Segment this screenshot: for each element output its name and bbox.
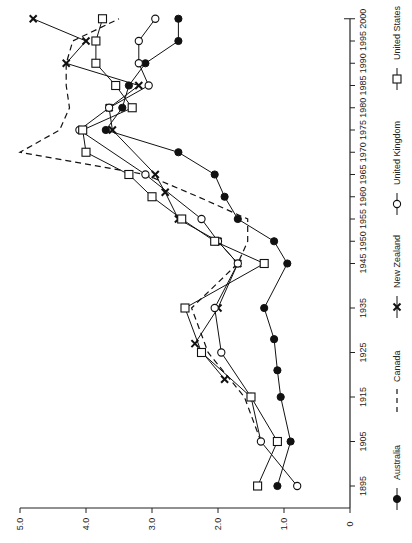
open-square-marker	[79, 126, 87, 134]
filled-circle-marker	[119, 104, 126, 111]
year-axis-label: 2000	[358, 9, 368, 29]
open-circle-marker	[257, 438, 264, 445]
open-square-marker	[112, 82, 120, 90]
filled-circle-marker	[287, 438, 294, 445]
year-axis-label: 1935	[358, 298, 368, 318]
legend-label: United Kingdom	[392, 121, 402, 185]
filled-circle-marker	[271, 238, 278, 245]
open-square-marker	[247, 393, 255, 401]
series-line	[33, 19, 238, 379]
filled-circle-marker	[234, 215, 241, 222]
open-circle-marker	[106, 104, 113, 111]
x-marker	[30, 15, 37, 22]
value-axis-label: 5.0	[15, 518, 25, 531]
open-square-marker	[393, 75, 401, 83]
open-square-marker	[254, 482, 262, 490]
open-circle-marker	[211, 304, 218, 311]
year-axis-label: 1945	[358, 253, 368, 273]
open-circle-marker	[198, 215, 205, 222]
legend-item-united-states: United States	[392, 5, 402, 90]
value-axis-label: 3.0	[147, 518, 157, 531]
open-circle-marker	[135, 37, 142, 44]
legend-label: New Zealand	[392, 235, 402, 288]
filled-circle-marker	[274, 367, 281, 374]
open-square-marker	[181, 304, 189, 312]
open-square-marker	[82, 148, 90, 156]
open-square-marker	[198, 349, 206, 357]
x-marker	[221, 376, 228, 383]
year-axis-label: 1925	[358, 342, 368, 362]
legend-item-new-zealand: New Zealand	[392, 235, 402, 318]
open-square-marker	[211, 237, 219, 245]
filled-circle-marker	[393, 495, 400, 502]
year-axis-label: 1960	[358, 187, 368, 207]
chart-series	[20, 15, 301, 490]
x-marker	[152, 171, 159, 178]
year-axis-label: 1915	[358, 387, 368, 407]
year-axis-label: 1980	[358, 98, 368, 118]
legend-label: Australia	[392, 445, 402, 480]
open-circle-marker	[393, 200, 400, 207]
filled-circle-marker	[221, 193, 228, 200]
filled-circle-marker	[274, 482, 281, 489]
x-marker	[83, 38, 90, 45]
x-marker	[135, 82, 142, 89]
filled-circle-marker	[175, 149, 182, 156]
year-axis-label: 1985	[358, 75, 368, 95]
open-circle-marker	[142, 171, 149, 178]
year-axis-label: 1955	[358, 209, 368, 229]
open-square-marker	[125, 171, 133, 179]
legend-label: United States	[392, 5, 402, 60]
open-square-marker	[148, 193, 156, 201]
filled-circle-marker	[211, 171, 218, 178]
open-circle-marker	[218, 349, 225, 356]
value-axis-label: 2.0	[213, 518, 223, 531]
series-united-kingdom	[76, 15, 301, 489]
legend-item-australia: Australia	[392, 445, 402, 510]
year-axis-label: 1970	[358, 142, 368, 162]
year-axis-label: 1965	[358, 164, 368, 184]
series-australia	[102, 15, 294, 489]
open-circle-marker	[145, 82, 152, 89]
filled-circle-marker	[277, 393, 284, 400]
open-square-marker	[273, 438, 281, 446]
filled-circle-marker	[261, 304, 268, 311]
chart-legend: AustraliaCanadaNew ZealandUnited Kingdom…	[392, 5, 402, 510]
filled-circle-marker	[175, 37, 182, 44]
legend-item-canada: Canada	[392, 350, 402, 412]
year-axis-label: 1950	[358, 231, 368, 251]
filled-circle-marker	[271, 336, 278, 343]
open-square-marker	[128, 104, 136, 112]
open-square-marker	[92, 59, 100, 67]
filled-circle-marker	[284, 260, 291, 267]
open-circle-marker	[234, 260, 241, 267]
legend-item-united-kingdom: United Kingdom	[392, 121, 402, 215]
line-chart: 01.02.03.04.05.0189519051915192519351945…	[0, 0, 412, 543]
value-axis-label: 1.0	[279, 518, 289, 531]
open-square-marker	[178, 215, 186, 223]
open-square-marker	[260, 260, 268, 268]
chart-axes: 01.02.03.04.05.0189519051915192519351945…	[15, 9, 368, 531]
value-axis-label: 0	[345, 521, 355, 526]
year-axis-label: 1895	[358, 476, 368, 496]
open-square-marker	[92, 37, 100, 45]
filled-circle-marker	[102, 126, 109, 133]
series-new-zealand	[30, 15, 242, 382]
year-axis-label: 1990	[358, 53, 368, 73]
series-united-states	[79, 15, 282, 490]
open-circle-marker	[294, 482, 301, 489]
open-circle-marker	[152, 15, 159, 22]
open-circle-marker	[135, 60, 142, 67]
legend-label: Canada	[392, 350, 402, 382]
year-axis-label: 1995	[358, 31, 368, 51]
year-axis-label: 1975	[358, 120, 368, 140]
open-square-marker	[99, 15, 107, 23]
year-axis-label: 1905	[358, 431, 368, 451]
filled-circle-marker	[175, 15, 182, 22]
value-axis-label: 4.0	[81, 518, 91, 531]
